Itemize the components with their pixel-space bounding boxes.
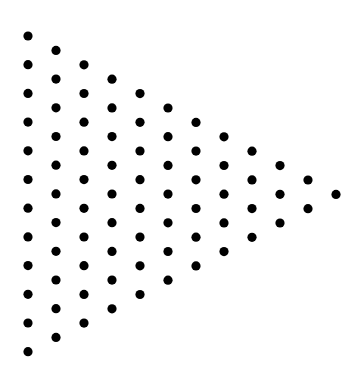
dot	[247, 233, 256, 242]
dot	[163, 276, 172, 285]
dot	[51, 132, 60, 141]
dot	[191, 204, 200, 213]
dot	[23, 318, 32, 327]
dot	[79, 89, 88, 98]
dot	[191, 147, 200, 156]
dot	[191, 118, 200, 127]
dot	[51, 247, 60, 256]
dot	[51, 189, 60, 198]
dot	[23, 31, 32, 40]
dot	[23, 347, 32, 356]
dot	[23, 261, 32, 270]
dot	[51, 333, 60, 342]
dot	[219, 161, 228, 170]
dot	[23, 175, 32, 184]
dot	[275, 161, 284, 170]
dot	[51, 46, 60, 55]
dot	[219, 218, 228, 227]
dot	[107, 103, 116, 112]
dot	[23, 232, 32, 241]
dot	[275, 190, 284, 199]
dot	[331, 190, 340, 199]
dot	[79, 261, 88, 270]
dot	[275, 218, 284, 227]
dot	[135, 261, 144, 270]
dot	[107, 189, 116, 198]
dot	[247, 204, 256, 213]
dot	[23, 146, 32, 155]
dot	[303, 175, 312, 184]
dot	[191, 233, 200, 242]
dot	[135, 146, 144, 155]
dot	[163, 132, 172, 141]
dot	[23, 89, 32, 98]
dot	[135, 233, 144, 242]
dot	[303, 204, 312, 213]
dot	[107, 132, 116, 141]
dot	[51, 275, 60, 284]
dot	[23, 204, 32, 213]
dot	[107, 75, 116, 84]
dot	[163, 161, 172, 170]
dot	[23, 290, 32, 299]
dot	[107, 161, 116, 170]
dot	[135, 89, 144, 98]
dot	[163, 247, 172, 256]
dot	[219, 190, 228, 199]
dot-triangle-diagram	[0, 0, 353, 375]
dot-grid	[23, 31, 340, 356]
dot	[191, 261, 200, 270]
dot	[79, 204, 88, 213]
dot	[191, 175, 200, 184]
dot	[23, 118, 32, 127]
dot	[219, 132, 228, 141]
dot	[107, 304, 116, 313]
dot	[79, 290, 88, 299]
dot	[163, 190, 172, 199]
dot	[79, 232, 88, 241]
dot	[107, 218, 116, 227]
dot	[107, 247, 116, 256]
dot	[23, 60, 32, 69]
dot	[135, 204, 144, 213]
dot	[163, 218, 172, 227]
dot	[163, 103, 172, 112]
dot	[79, 60, 88, 69]
dot	[79, 146, 88, 155]
dot	[51, 75, 60, 84]
dot	[51, 103, 60, 112]
dot	[79, 319, 88, 328]
dot	[79, 118, 88, 127]
dot	[247, 175, 256, 184]
dot	[51, 218, 60, 227]
dot	[107, 276, 116, 285]
dot	[51, 161, 60, 170]
dot	[135, 290, 144, 299]
dot	[51, 304, 60, 313]
dot	[135, 118, 144, 127]
dot	[79, 175, 88, 184]
dot	[247, 147, 256, 156]
dot	[135, 175, 144, 184]
dot	[219, 247, 228, 256]
